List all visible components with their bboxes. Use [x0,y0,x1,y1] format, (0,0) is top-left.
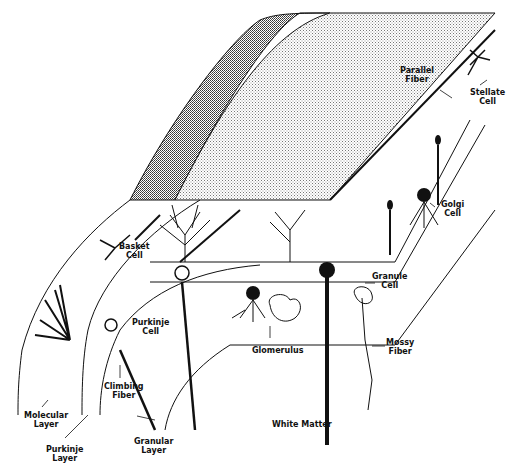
label-granule-cell: Granule Cell [372,272,407,290]
label-molecular-layer: Molecular Layer [24,411,68,429]
label-white-matter: White Matter [272,420,332,429]
label-purkinje-layer: Purkinje Layer [46,445,83,463]
label-mossy-fiber: Mossy Fiber [386,338,414,356]
label-stellate-cell: Stellate Cell [470,88,505,106]
label-parallel-fiber: Parallel Fiber [400,66,434,84]
purkinje-dendrites [35,205,305,340]
diagram-artwork [0,0,511,472]
label-granular-layer: Granular Layer [134,437,173,455]
glomerulus-shape [269,295,300,322]
label-glomerulus: Glomerulus [252,346,303,355]
label-purkinje-cell: Purkinje Cell [132,318,169,336]
cerebellum-diagram: Parallel Fiber Stellate Cell Basket Cell… [0,0,511,472]
label-basket-cell: Basket Cell [119,242,150,260]
label-golgi-cell: Golgi Cell [441,200,464,218]
label-climbing-fiber: Climbing Fiber [104,382,144,400]
